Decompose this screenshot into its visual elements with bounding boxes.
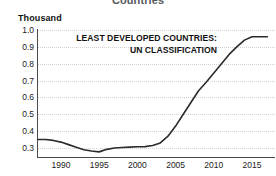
chart-page: Countries Thousand 1.00.90.80.70.60.50.4… — [0, 0, 276, 176]
annotation-line-1: LEAST DEVELOPED COUNTRIES: — [62, 33, 217, 45]
y-tick-label: 0.9 — [22, 42, 34, 52]
y-tick-label: 0.4 — [22, 126, 34, 136]
y-tick-label: 0.3 — [22, 143, 34, 153]
y-tick-label: 1.0 — [22, 25, 34, 35]
x-tick-label: 2010 — [204, 160, 223, 170]
chart-title: Countries — [0, 0, 276, 6]
x-tick-label: 2000 — [128, 160, 147, 170]
x-tick-label: 1995 — [90, 160, 109, 170]
x-axis-line — [37, 157, 275, 158]
annotation-line-2: UN CLASSIFICATION — [62, 45, 217, 57]
x-tick-label: 1990 — [51, 160, 70, 170]
y-tick-label: 0.5 — [22, 109, 34, 119]
y-axis-unit-label: Thousand — [18, 13, 62, 23]
y-tick-label: 0.7 — [22, 76, 34, 86]
y-tick-label: 0.6 — [22, 92, 34, 102]
series-annotation: LEAST DEVELOPED COUNTRIES: UN CLASSIFICA… — [62, 33, 217, 56]
x-tick-label: 2005 — [166, 160, 185, 170]
x-tick-label: 2015 — [243, 160, 262, 170]
plot-area: 1.00.90.80.70.60.50.40.3 LEAST DEVELOPED… — [38, 30, 275, 157]
y-tick-label: 0.8 — [22, 59, 34, 69]
